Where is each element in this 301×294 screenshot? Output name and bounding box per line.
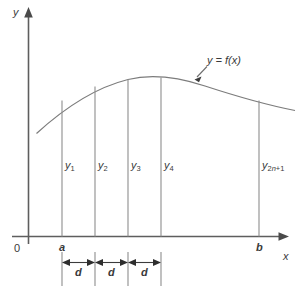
ordinate-label-y2n1-base: y bbox=[262, 159, 268, 171]
spacing-label-d-1: d bbox=[75, 267, 82, 278]
y-axis bbox=[24, 7, 33, 244]
ordinate-label-y4-base: y bbox=[164, 159, 170, 171]
lower-bound-label-a: a bbox=[59, 242, 65, 253]
ordinate-label-y3-sub: 3 bbox=[137, 164, 141, 173]
x-axis-arrowhead bbox=[279, 232, 290, 241]
ordinate-label-y3: y3 bbox=[131, 160, 141, 171]
origin-label: 0 bbox=[14, 243, 20, 254]
ordinate-label-y3-base: y bbox=[131, 159, 137, 171]
spacing-label-d-2: d bbox=[108, 267, 115, 278]
figure-canvas: y x 0 a b y = f(x) y1 y2 y3 y4 y2n+1 d d… bbox=[0, 0, 301, 294]
curve-equation-label: y = f(x) bbox=[207, 55, 241, 66]
leader-arrowhead bbox=[195, 77, 202, 83]
y-axis-arrowhead bbox=[24, 7, 33, 18]
ordinate-label-y2-sub: 2 bbox=[104, 164, 108, 173]
function-curve bbox=[37, 77, 296, 134]
spacing-label-d-3: d bbox=[141, 267, 148, 278]
ordinate-label-y1-base: y bbox=[65, 159, 71, 171]
x-axis bbox=[12, 232, 289, 241]
ordinate-label-y2: y2 bbox=[98, 160, 108, 171]
ordinate-label-y2n1: y2n+1 bbox=[262, 160, 284, 171]
ordinate-label-y1-sub: 1 bbox=[71, 164, 75, 173]
ordinate-label-y4: y4 bbox=[164, 160, 174, 171]
curve-annotation-leader bbox=[195, 67, 208, 83]
ordinate-lines bbox=[62, 78, 259, 237]
ordinate-label-y2n1-sub: 2n+1 bbox=[268, 164, 285, 173]
y-axis-label: y bbox=[13, 7, 19, 18]
dimension-arrows bbox=[62, 259, 161, 266]
ordinate-label-y2-base: y bbox=[98, 159, 104, 171]
upper-bound-label-b: b bbox=[256, 242, 263, 253]
ordinate-label-y1: y1 bbox=[65, 160, 75, 171]
ordinate-label-y4-sub: 4 bbox=[170, 164, 174, 173]
x-axis-label: x bbox=[283, 251, 289, 262]
